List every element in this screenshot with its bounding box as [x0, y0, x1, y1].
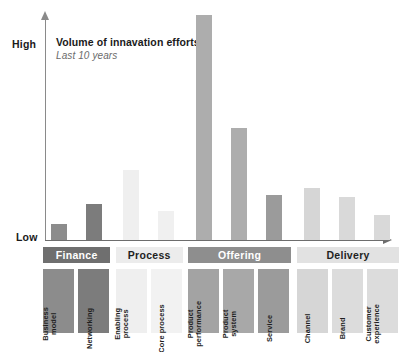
- group-band-label: Offering: [218, 250, 261, 261]
- category-cell: Productperformance: [188, 269, 219, 333]
- group-band-finance: Finance: [43, 247, 110, 263]
- bar: [231, 128, 247, 241]
- bar: [266, 195, 282, 240]
- x-axis-line: [45, 240, 385, 241]
- group-band-offering: Offering: [188, 247, 291, 263]
- y-axis-low-label: Low: [16, 231, 38, 243]
- category-cell: Service: [258, 269, 289, 333]
- category-cell-label: Networking: [85, 307, 93, 348]
- category-cell: Channel: [297, 269, 328, 333]
- category-cell: Networking: [78, 269, 109, 333]
- category-cell-label: Enablingprocess: [114, 308, 131, 340]
- y-axis-high-label: High: [12, 38, 36, 50]
- category-cell: Brand: [332, 269, 363, 333]
- bar: [86, 204, 102, 240]
- category-cell-label: Brand: [339, 317, 347, 339]
- group-band-label: Process: [128, 250, 171, 261]
- category-cell-label: Customerexperience: [365, 304, 382, 344]
- bar: [374, 215, 390, 240]
- category-cell-label: Businessmodel: [42, 307, 59, 341]
- category-cell: Productsystem: [223, 269, 254, 333]
- bar: [51, 224, 67, 240]
- category-cell-label: Service: [265, 314, 273, 341]
- category-cell: Core process: [151, 269, 182, 333]
- group-band-label: Finance: [56, 250, 98, 261]
- category-cell: Enablingprocess: [116, 269, 147, 333]
- group-band-delivery: Delivery: [297, 247, 400, 263]
- category-cell: Customerexperience: [367, 269, 398, 333]
- group-band-process: Process: [116, 247, 183, 263]
- category-cell-label: Channel: [304, 313, 312, 343]
- bar: [158, 211, 174, 240]
- category-cell-label: Productsystem: [222, 310, 239, 339]
- category-cell: Businessmodel: [43, 269, 74, 333]
- category-cell-label: Core process: [158, 304, 166, 352]
- bar: [339, 197, 355, 240]
- bar: [196, 15, 212, 240]
- bar-plot-area: [45, 10, 385, 240]
- category-cell-label: Productperformance: [187, 301, 204, 347]
- category-matrix: FinanceBusinessmodelNetworkingProcessEna…: [0, 247, 401, 347]
- group-band-label: Delivery: [326, 250, 369, 261]
- bar: [304, 188, 320, 240]
- bar: [123, 170, 139, 240]
